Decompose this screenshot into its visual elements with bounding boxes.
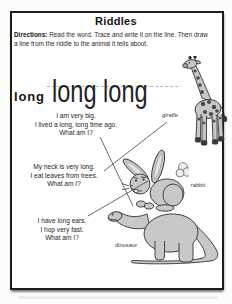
riddle-rabbit: I have long ears. I hop very fast. What … bbox=[14, 217, 110, 243]
scan-artifact bbox=[18, 296, 218, 299]
riddle-line: I hop very fast. bbox=[14, 226, 110, 235]
rabbit-label: rabbit bbox=[186, 182, 210, 188]
directions-line-2: a line from the riddle to the animal it … bbox=[14, 40, 220, 49]
riddle-dinosaur: I am very big. I lived a long, long time… bbox=[18, 112, 134, 138]
riddle-line: What am I? bbox=[18, 129, 134, 138]
riddle-line: My neck is very long. bbox=[14, 163, 114, 172]
worksheet-page: Riddles Directions: Read the word. Trace… bbox=[0, 0, 232, 304]
directions-label: Directions: bbox=[14, 31, 47, 38]
page-title: Riddles bbox=[0, 15, 232, 27]
trace-word-label: long bbox=[14, 89, 45, 104]
riddle-giraffe: My neck is very long. I eat leaves from … bbox=[14, 163, 114, 189]
riddle-line: What am I? bbox=[14, 180, 114, 189]
directions-line-1: Directions: Read the word. Trace and wri… bbox=[14, 31, 220, 40]
directions: Directions: Read the word. Trace and wri… bbox=[14, 31, 220, 48]
riddle-line: I lived a long, long time ago. bbox=[18, 121, 134, 130]
giraffe-label: giraffe bbox=[156, 112, 184, 118]
riddle-line: I have long ears. bbox=[14, 217, 110, 226]
riddle-line: What am I? bbox=[14, 234, 110, 243]
directions-text-1: Read the word. Trace and write it on the… bbox=[47, 31, 207, 38]
dinosaur-illustration bbox=[103, 201, 223, 267]
riddle-line: I eat leaves from trees. bbox=[14, 172, 114, 181]
traced-handwriting: long long bbox=[52, 74, 148, 110]
giraffe-illustration bbox=[181, 56, 229, 148]
riddle-line: I am very big. bbox=[18, 112, 134, 121]
